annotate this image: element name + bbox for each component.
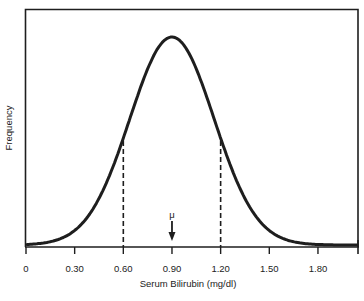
y-axis-label: Frequency	[3, 105, 14, 150]
plot-frame	[26, 10, 359, 248]
x-tick-label: 1.50	[260, 263, 279, 274]
x-tick-label: 1.80	[309, 263, 328, 274]
x-tick-label: 1.20	[211, 263, 230, 274]
x-tick-label: 0	[23, 263, 28, 274]
normal-curve	[27, 37, 357, 245]
x-tick-label: 0.90	[163, 263, 182, 274]
x-axis-label: Serum Bilirubin (mg/dl)	[140, 278, 237, 289]
mean-arrow-icon	[168, 221, 175, 241]
x-tick-label: 0.30	[65, 263, 84, 274]
chart: 00.300.600.901.201.501.80 μ Serum Biliru…	[0, 0, 364, 301]
mean-label: μ	[169, 209, 174, 220]
x-tick-label: 0.60	[114, 263, 133, 274]
x-axis-tick-labels: 00.300.600.901.201.501.80	[23, 263, 327, 274]
